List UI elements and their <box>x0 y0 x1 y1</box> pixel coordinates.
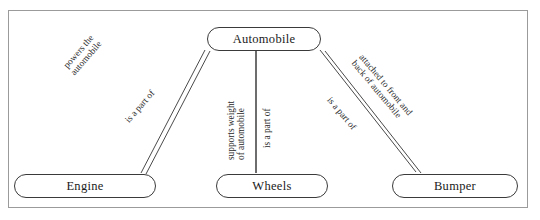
node-wheels-label: Wheels <box>252 180 291 193</box>
diagram-canvas: Automobile Engine Wheels Bumper powers t… <box>0 0 540 220</box>
node-engine[interactable]: Engine <box>14 174 156 198</box>
node-engine-label: Engine <box>66 180 103 193</box>
edge-label-wheels-is-a-part-of: is a part of <box>262 109 272 149</box>
edge-label-line-1: supports weight <box>226 101 236 160</box>
node-bumper[interactable]: Bumper <box>392 174 518 198</box>
edge-label-line-2: of automobile <box>236 101 246 160</box>
node-bumper-label: Bumper <box>434 180 476 193</box>
edge-engine-automobile <box>141 50 210 174</box>
node-automobile[interactable]: Automobile <box>207 27 321 51</box>
node-wheels[interactable]: Wheels <box>216 174 328 198</box>
edge-label-wheels-supports-weight: supports weight of automobile <box>226 101 247 160</box>
node-automobile-label: Automobile <box>233 33 296 46</box>
